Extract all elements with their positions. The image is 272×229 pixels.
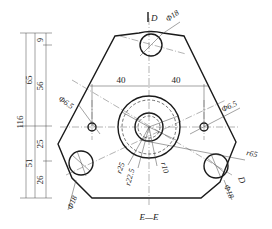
dim-65: 65 xyxy=(24,75,34,85)
section-marker-top: D xyxy=(150,13,158,23)
dia-bottom-right: Φ18 xyxy=(222,183,236,199)
dia-left-small: Φ6.5 xyxy=(57,94,75,111)
radius-r65: r65 xyxy=(246,148,259,159)
radius-r25: r25 xyxy=(114,161,126,175)
section-marker-right: D xyxy=(236,174,248,185)
technical-drawing: 116 65 51 9 56 25 26 40 40 Φ18 Φ6.5 Φ6.5… xyxy=(0,0,272,229)
dim-51: 51 xyxy=(24,159,34,168)
radius-r22-5: r22.5 xyxy=(123,168,136,187)
dim-9: 9 xyxy=(36,38,45,42)
dim-25: 25 xyxy=(35,139,45,149)
dia-right-small: Φ6.5 xyxy=(220,99,238,114)
dim-40-right: 40 xyxy=(172,75,182,85)
dia-bottom-left: Φ18 xyxy=(66,194,80,210)
radius-r10: r10 xyxy=(159,161,171,174)
section-label: E—E xyxy=(139,212,160,222)
dim-40-left: 40 xyxy=(117,75,127,85)
dim-56: 56 xyxy=(35,81,45,91)
dim-116: 116 xyxy=(15,115,25,129)
dim-26: 26 xyxy=(35,175,45,185)
dia-top-hole: Φ18 xyxy=(164,8,181,23)
